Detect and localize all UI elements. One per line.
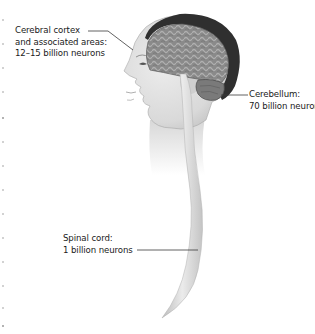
label-line: 12–15 billion neurons (15, 48, 107, 60)
label-spinal-cord: Spinal cord: 1 billion neurons (63, 233, 133, 256)
figure-canvas: Cerebral cortex and associated areas: 12… (0, 0, 315, 334)
page-edge-marks (1, 0, 5, 334)
label-cerebellum: Cerebellum: 70 billion neurons (249, 89, 315, 112)
label-cerebral-cortex: Cerebral cortex and associated areas: 12… (15, 25, 107, 60)
label-line: Spinal cord: (63, 233, 133, 245)
label-line: and associated areas: (15, 37, 107, 49)
label-line: Cerebellum: (249, 89, 315, 101)
label-line: 70 billion neurons (249, 101, 315, 113)
label-line: 1 billion neurons (63, 245, 133, 257)
label-line: Cerebral cortex (15, 25, 107, 37)
